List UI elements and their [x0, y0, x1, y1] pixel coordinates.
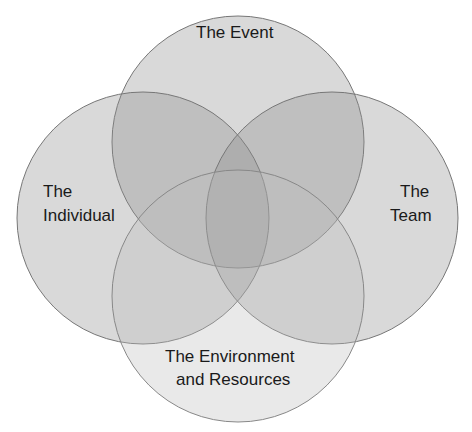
label-individual-line2: Individual	[43, 205, 115, 227]
label-event: The Event	[196, 22, 274, 44]
label-team-line2: Team	[390, 205, 432, 227]
label-individual-line1: The	[43, 181, 72, 203]
label-environment-line1: The Environment	[165, 346, 294, 368]
label-team-line1: The	[400, 181, 429, 203]
label-environment-line2: and Resources	[176, 369, 290, 391]
truncated-caption	[8, 426, 238, 432]
